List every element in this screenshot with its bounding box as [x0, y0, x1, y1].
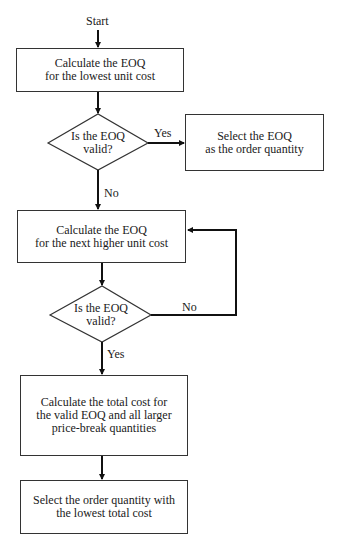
edge-label-no-2: No — [182, 301, 197, 314]
decision-text: Is the EOQ valid? — [74, 301, 128, 328]
start-label: Start — [86, 15, 109, 28]
decision-1-text: Is the EOQ valid? — [58, 130, 138, 156]
edge-label-yes-1: Yes — [154, 127, 171, 140]
process-calc-total: Calculate the total cost for the valid E… — [20, 375, 188, 456]
process-text: Calculate the total cost for the valid E… — [36, 396, 171, 435]
process-select-lowest: Select the order quantity with the lowes… — [20, 480, 188, 534]
decision-text: Is the EOQ valid? — [71, 129, 125, 156]
edge-label-yes-2: Yes — [107, 348, 124, 361]
process-select-eoq: Select the EOQ as the order quantity — [185, 114, 324, 171]
process-text: Calculate the EOQ for the next higher un… — [35, 224, 168, 250]
process-calc-lowest: Calculate the EOQ for the lowest unit co… — [16, 48, 184, 92]
decision-2-text: Is the EOQ valid? — [61, 302, 141, 328]
process-text: Select the order quantity with the lowes… — [33, 494, 175, 520]
process-text: Select the EOQ as the order quantity — [205, 130, 303, 156]
process-calc-next: Calculate the EOQ for the next higher un… — [17, 210, 186, 263]
edge-label-no-1: No — [104, 187, 119, 200]
process-text: Calculate the EOQ for the lowest unit co… — [45, 57, 155, 83]
